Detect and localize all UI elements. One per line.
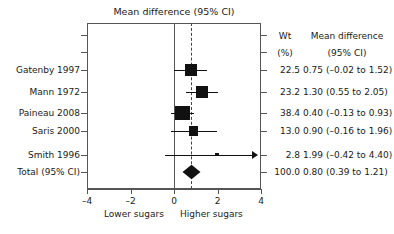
weight-value: 2.8: [262, 150, 300, 160]
effect-column-subheader: (95% CI): [302, 48, 392, 58]
effect-value: 1.99 (–0.42 to 4.40): [303, 150, 394, 160]
effect-value: 0.90 (–0.16 to 1.96): [303, 126, 394, 136]
x-axis-tick-label: 0: [161, 196, 187, 206]
plot-title: Mean difference (95% CI): [87, 6, 261, 17]
study-label: Smith 1996: [28, 150, 80, 160]
effect-column-header: Mean difference: [302, 31, 392, 41]
summary-label: Total (95% CI): [17, 167, 80, 177]
x-axis-tick: [218, 189, 219, 194]
weight-value: 22.5: [262, 65, 300, 75]
weight-value: 23.2: [262, 87, 300, 97]
row-tick: [81, 70, 87, 71]
study-label: Paineau 2008: [19, 108, 80, 118]
row-tick: [81, 92, 87, 93]
row-tick: [261, 52, 267, 53]
effect-marker-box: [185, 64, 197, 76]
confidence-interval-line: [165, 155, 253, 156]
arrow-right-icon: [252, 151, 258, 159]
row-tick: [81, 113, 87, 114]
row-tick: [81, 131, 87, 132]
x-axis-tick-label: –2: [118, 196, 144, 206]
row-tick: [81, 35, 87, 36]
row-tick: [81, 52, 87, 53]
x-axis-tick: [261, 189, 262, 194]
study-label: Gatenby 1997: [16, 65, 80, 75]
effect-value: 1.30 (0.55 to 2.05): [303, 87, 394, 97]
x-axis-tick: [87, 189, 88, 194]
effect-value: 0.75 (–0.02 to 1.52): [303, 65, 394, 75]
study-label: Saris 2000: [32, 126, 80, 136]
x-axis-tick: [131, 189, 132, 194]
x-axis-tick-label: 2: [205, 196, 231, 206]
axis-caption-higher: Higher sugars: [180, 209, 243, 219]
study-label: Mann 1972: [30, 87, 80, 97]
x-axis-tick-label: 4: [248, 196, 274, 206]
row-tick: [261, 35, 267, 36]
effect-marker-box: [215, 153, 219, 157]
forest-plot: Mean difference (95% CI) Wt (%) Mean dif…: [0, 0, 394, 234]
axis-caption-lower: Lower sugars: [104, 209, 164, 219]
weight-value: 13.0: [262, 126, 300, 136]
row-tick: [81, 172, 87, 173]
weight-column-subheader: (%): [270, 48, 300, 58]
summary-effect-value: 0.80 (0.39 to 1.21): [303, 167, 394, 177]
effect-value: 0.40 (–0.13 to 0.93): [303, 108, 394, 118]
summary-weight-value: 100.0: [262, 167, 300, 177]
weight-value: 38.4: [262, 108, 300, 118]
summary-diamond: [178, 162, 206, 182]
effect-marker-box: [175, 106, 190, 121]
effect-marker-box: [196, 86, 208, 98]
weight-column-header: Wt: [270, 31, 300, 41]
row-tick: [81, 155, 87, 156]
x-axis-tick-label: –4: [74, 196, 100, 206]
effect-marker-box: [189, 126, 198, 135]
x-axis-tick: [174, 189, 175, 194]
